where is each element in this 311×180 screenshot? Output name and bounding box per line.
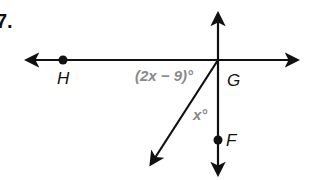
point-H <box>59 56 68 65</box>
point-F <box>214 136 223 145</box>
angle-label-2x-minus-9: (2x − 9)° <box>135 68 193 83</box>
point-label-F: F <box>226 132 236 149</box>
angle-label-x: x° <box>193 107 207 122</box>
diagram-canvas <box>0 0 311 180</box>
point-label-H: H <box>57 70 69 87</box>
point-label-G: G <box>227 72 240 89</box>
